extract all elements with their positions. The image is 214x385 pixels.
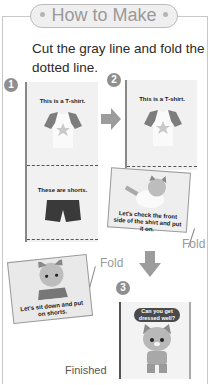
step-1-badge: 1	[4, 78, 18, 92]
title-pill: How to Make	[30, 4, 178, 28]
step-1-sheet: This is a T-shirt. These are shorts.	[25, 82, 98, 242]
fold-label: Fold	[182, 237, 205, 251]
cat-icon	[137, 324, 177, 376]
arrow-right-icon	[101, 108, 121, 130]
tshirt-icon	[44, 110, 82, 148]
tshirt-icon	[144, 108, 182, 146]
shorts-icon	[45, 200, 81, 222]
tshirt-caption: This is a T-shirt.	[127, 96, 197, 102]
step-2-flap: Let's check the front side of the shirt …	[107, 167, 191, 232]
speech-bubble: Can you get dressed well?	[134, 308, 180, 322]
page-title: How to Make	[51, 5, 156, 25]
dot-icon	[40, 12, 45, 17]
fold-line	[27, 239, 98, 240]
fold-line	[127, 166, 197, 167]
step-3-badge: 3	[116, 281, 130, 295]
finished-book: Can you get dressed well?	[119, 302, 191, 379]
fold-label: Fold	[100, 256, 123, 270]
arrow-down-icon	[139, 251, 161, 277]
instruction-text: Cut the gray line and fold the dotted li…	[32, 39, 207, 77]
shorts-flap: Let's sit down and put on shorts.	[7, 254, 93, 324]
cat-icon	[123, 173, 177, 211]
step-2-sheet: This is a T-shirt.	[125, 80, 197, 170]
shorts-caption: These are shorts.	[27, 187, 98, 193]
dot-icon	[163, 12, 168, 17]
cat-icon	[26, 259, 76, 302]
step-2-badge: 2	[107, 73, 121, 87]
tshirt-caption: This is a T-shirt.	[27, 98, 98, 104]
fold-line	[27, 165, 98, 166]
finished-label: Finished	[65, 364, 107, 376]
